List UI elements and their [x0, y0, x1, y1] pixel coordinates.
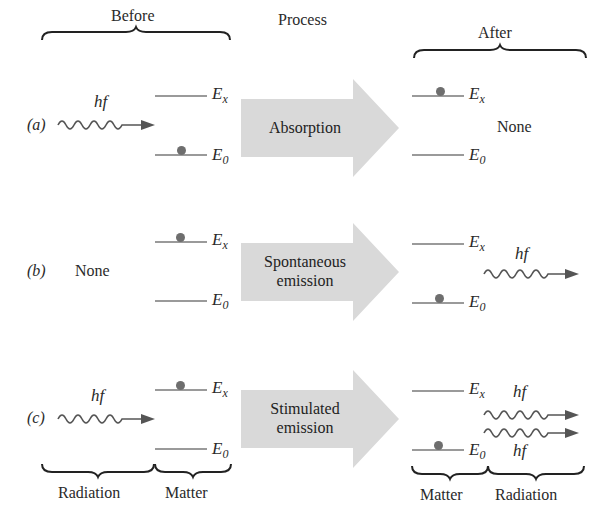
- photon-wave-arrow-a: [58, 117, 158, 133]
- electron-after-a: [436, 87, 445, 96]
- photon-wave-arrow-c-out-top: [484, 407, 584, 423]
- level-ex-before-a: [155, 95, 207, 97]
- photon-wave-arrow-c: [58, 411, 158, 427]
- header-process: Process: [278, 11, 327, 29]
- header-before: Before: [111, 7, 155, 25]
- photon-wave-arrow-b-out: [484, 266, 584, 282]
- level-ex-after-c: [412, 390, 464, 392]
- brace-right-matter: [410, 464, 490, 480]
- photon-label-c-out-bottom: hf: [513, 441, 526, 461]
- photon-wave-arrow-c-out-bottom: [484, 425, 584, 441]
- brace-right-radiation: [486, 464, 586, 480]
- level-e0-before-b: [155, 300, 207, 302]
- level-ex-after-b: [412, 243, 464, 245]
- electron-before-b: [176, 233, 185, 242]
- label-ex-before-b: Ex: [212, 230, 228, 253]
- row-tag-b: (b): [27, 262, 46, 280]
- electron-before-c: [176, 381, 185, 390]
- label-ex-before-a: Ex: [212, 84, 228, 107]
- label-ex-after-a: Ex: [469, 84, 485, 107]
- label-ex-after-b: Ex: [469, 232, 485, 255]
- photon-label-a: hf: [94, 92, 107, 112]
- before-radiation-b: None: [75, 262, 110, 280]
- brace-left-matter: [153, 462, 233, 478]
- level-e0-before-c: [155, 448, 207, 450]
- after-radiation-a: None: [497, 118, 532, 136]
- label-e0-after-a: E0: [469, 145, 485, 168]
- footer-right-radiation: Radiation: [495, 486, 557, 504]
- process-label-b: Spontaneous emission: [245, 252, 365, 290]
- label-e0-before-a: E0: [212, 145, 228, 168]
- footer-left-radiation: Radiation: [58, 484, 120, 502]
- row-tag-c: (c): [27, 409, 45, 427]
- brace-before: [40, 26, 232, 42]
- row-tag-a: (a): [27, 116, 46, 134]
- photon-label-c: hf: [91, 386, 104, 406]
- label-e0-before-b: E0: [212, 290, 228, 313]
- electron-after-b: [435, 294, 444, 303]
- brace-left-radiation: [40, 462, 156, 478]
- process-label-c: Stimulated emission: [245, 399, 365, 437]
- photon-label-c-out-top: hf: [513, 382, 526, 402]
- label-e0-before-c: E0: [212, 439, 228, 462]
- label-ex-after-c: Ex: [469, 379, 485, 402]
- level-e0-after-a: [412, 154, 464, 156]
- footer-left-matter: Matter: [165, 484, 208, 502]
- electron-after-c: [434, 441, 443, 450]
- electron-before-a: [177, 146, 186, 155]
- label-e0-after-b: E0: [469, 292, 485, 315]
- process-label-a: Absorption: [245, 118, 365, 137]
- photon-label-b-out: hf: [515, 244, 528, 264]
- label-ex-before-c: Ex: [212, 378, 228, 401]
- label-e0-after-c: E0: [469, 440, 485, 463]
- header-after: After: [478, 24, 512, 42]
- brace-after: [412, 44, 588, 60]
- footer-right-matter: Matter: [420, 486, 463, 504]
